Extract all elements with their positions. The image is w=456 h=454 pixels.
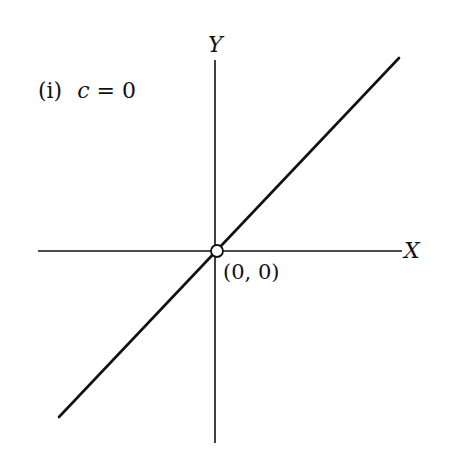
case-variable: c bbox=[77, 78, 89, 103]
origin-label: (0, 0) bbox=[223, 260, 279, 284]
case-number: (i) bbox=[38, 78, 62, 103]
line-y-equals-x bbox=[59, 58, 399, 417]
graph-figure: Y X (0, 0) (i) c = 0 bbox=[0, 0, 456, 454]
case-title: (i) c = 0 bbox=[38, 78, 136, 103]
case-equation: = 0 bbox=[97, 78, 136, 103]
x-axis-label: X bbox=[402, 238, 421, 263]
y-axis-label: Y bbox=[208, 32, 225, 57]
origin-point bbox=[211, 245, 223, 257]
